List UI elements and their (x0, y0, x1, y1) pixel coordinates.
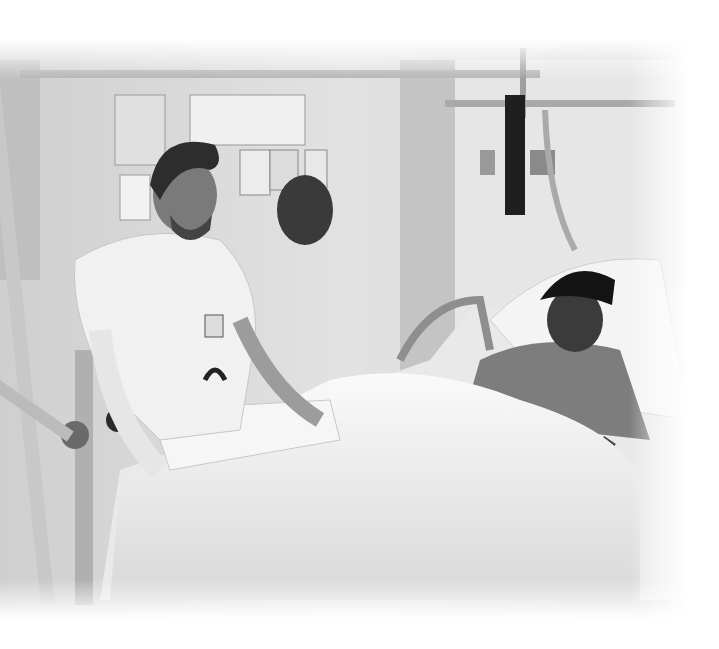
traction-bar (445, 100, 675, 107)
id-badge (205, 315, 223, 337)
drawing (240, 150, 270, 195)
drawing (115, 95, 165, 165)
dark-bag (277, 175, 333, 245)
drawing (190, 95, 305, 145)
iv-strap (505, 95, 525, 215)
wall-outlet (480, 150, 495, 175)
traction-bar (20, 70, 540, 78)
traction-pole (75, 350, 93, 605)
hospital-photo (0, 40, 690, 620)
drawing (120, 175, 150, 220)
